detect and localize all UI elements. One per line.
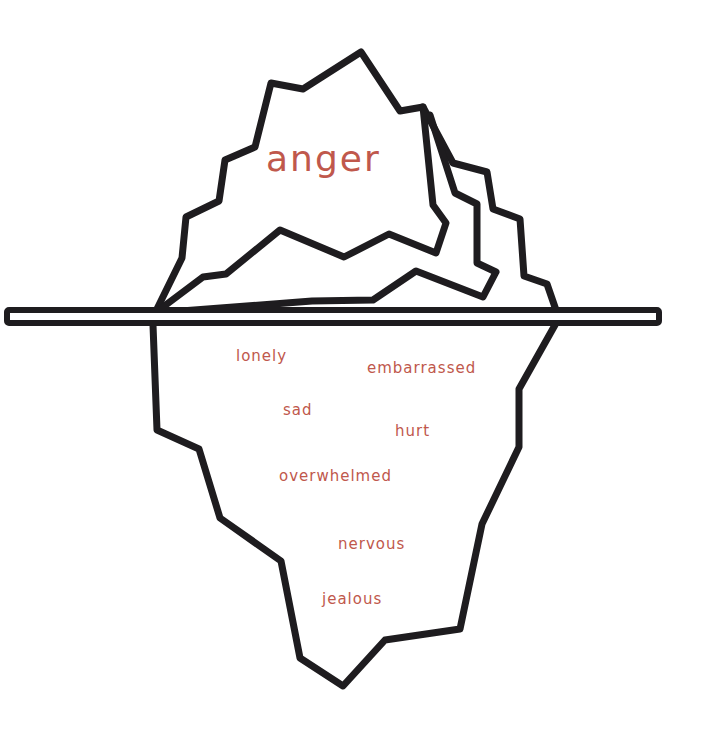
- iceberg-underwater-outline: [153, 325, 555, 686]
- label-overwhelmed: overwhelmed: [279, 467, 392, 485]
- label-jealous: jealous: [322, 590, 382, 608]
- label-sad: sad: [283, 401, 313, 419]
- label-anger: anger: [266, 138, 381, 179]
- waterline-bar: [7, 310, 659, 323]
- label-lonely: lonely: [236, 347, 287, 365]
- label-nervous: nervous: [338, 535, 405, 553]
- label-embarrassed: embarrassed: [367, 359, 476, 377]
- iceberg-diagram: [0, 0, 701, 741]
- label-hurt: hurt: [395, 422, 430, 440]
